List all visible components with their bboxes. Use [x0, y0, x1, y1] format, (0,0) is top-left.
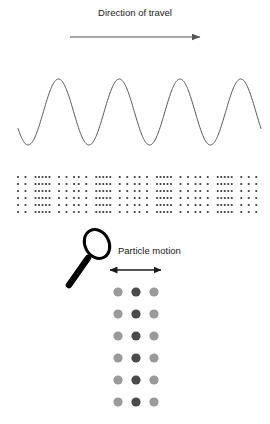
wave-particle-dot [240, 183, 242, 185]
wave-particle-dot [240, 204, 242, 206]
wave-particle-dot [95, 190, 97, 192]
particle-dot-outer [113, 309, 122, 318]
wave-particle-dot [146, 197, 148, 199]
wave-particle-dot [146, 204, 148, 206]
wave-particle-dot [134, 183, 136, 185]
wave-particle-dot [48, 197, 50, 199]
particle-motion-grid [113, 287, 158, 406]
wave-particle-dot [48, 204, 50, 206]
wave-particle-dot [138, 204, 140, 206]
wave-particle-dot [231, 183, 233, 185]
wave-particle-dot [217, 211, 219, 213]
wave-particle-dot [17, 211, 19, 213]
wave-particle-dot [138, 190, 140, 192]
wave-particle-dot [166, 197, 168, 199]
wave-particle-dot [138, 183, 140, 185]
wave-particle-dot [109, 211, 111, 213]
wave-particle-dot [17, 197, 19, 199]
wave-particle-dot [102, 211, 104, 213]
wave-particle-dot [99, 190, 101, 192]
wave-particle-dot [109, 190, 111, 192]
particle-dot-center [131, 309, 140, 318]
wave-particle-dot [146, 176, 148, 178]
wave-particle-dot [119, 211, 121, 213]
wave-particle-dot [24, 183, 26, 185]
wave-particle-dot [78, 190, 80, 192]
wave-particle-dot [231, 204, 233, 206]
wave-particle-dot [138, 197, 140, 199]
wave-particle-dot [156, 197, 158, 199]
wave-particle-dot [109, 183, 111, 185]
wave-particle-dot [38, 197, 40, 199]
wave-particle-dot [58, 176, 60, 178]
wave-diagram-figure: Direction of travel Particle motion [0, 0, 270, 424]
wave-particle-dot [126, 190, 128, 192]
particle-dot-outer [149, 287, 158, 296]
wave-particle-dot [41, 176, 43, 178]
wave-particle-dot [227, 176, 229, 178]
wave-particle-dot [126, 197, 128, 199]
wave-particle-dot [159, 211, 161, 213]
diagram-canvas [0, 0, 270, 424]
wave-particle-dot [199, 190, 201, 192]
wave-particle-dot [48, 176, 50, 178]
particle-dot-center [131, 287, 140, 296]
wave-particle-dot [248, 197, 250, 199]
wave-particle-dot [45, 190, 47, 192]
wave-particle-dot [156, 190, 158, 192]
wave-particle-dot [217, 176, 219, 178]
wave-particle-dot [163, 197, 165, 199]
wave-particle-dot [99, 176, 101, 178]
wave-particle-dot [78, 183, 80, 185]
wave-particle-dot [34, 183, 36, 185]
particle-dot-center [131, 375, 140, 384]
particle-dot-outer [149, 375, 158, 384]
particle-dot-outer [149, 331, 158, 340]
wave-particle-dot [207, 183, 209, 185]
wave-particle-dot [85, 211, 87, 213]
wave-particle-dot [34, 197, 36, 199]
wave-particle-dot [17, 176, 19, 178]
wave-particle-dot [240, 211, 242, 213]
wave-particle-dot [207, 190, 209, 192]
wave-particle-dot [163, 190, 165, 192]
wave-particle-dot [99, 183, 101, 185]
wave-particle-dot [24, 211, 26, 213]
wave-particle-dot [187, 211, 189, 213]
wave-particle-dot [73, 183, 75, 185]
wave-particle-dot [166, 190, 168, 192]
wave-particle-dot [248, 211, 250, 213]
wave-particle-dot [134, 197, 136, 199]
wave-particle-dot [163, 183, 165, 185]
wave-particle-dot [119, 190, 121, 192]
longitudinal-dot-field [17, 176, 257, 213]
wave-particle-dot [38, 204, 40, 206]
wave-particle-dot [227, 183, 229, 185]
wave-particle-dot [255, 211, 257, 213]
wave-particle-dot [106, 211, 108, 213]
wave-particle-dot [220, 176, 222, 178]
wave-particle-dot [95, 204, 97, 206]
wave-particle-dot [24, 176, 26, 178]
particle-dot-outer [149, 397, 158, 406]
wave-particle-dot [58, 197, 60, 199]
wave-particle-dot [85, 183, 87, 185]
wave-particle-dot [134, 211, 136, 213]
wave-particle-dot [220, 197, 222, 199]
wave-particle-dot [220, 190, 222, 192]
wave-particle-dot [34, 204, 36, 206]
wave-particle-dot [187, 190, 189, 192]
wave-particle-dot [187, 197, 189, 199]
wave-particle-dot [41, 204, 43, 206]
wave-particle-dot [248, 176, 250, 178]
wave-particle-dot [38, 183, 40, 185]
wave-particle-dot [58, 190, 60, 192]
particle-dot-center [131, 397, 140, 406]
wave-particle-dot [227, 197, 229, 199]
wave-particle-dot [159, 197, 161, 199]
wave-particle-dot [217, 197, 219, 199]
wave-particle-dot [41, 211, 43, 213]
wave-particle-dot [179, 190, 181, 192]
wave-particle-dot [199, 211, 201, 213]
wave-particle-dot [156, 211, 158, 213]
